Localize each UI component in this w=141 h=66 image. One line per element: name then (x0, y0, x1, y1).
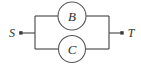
node-b-label: B (68, 9, 76, 24)
target-terminal-label: T (128, 26, 136, 40)
parallel-network-diagram: B C S T (0, 0, 141, 66)
diagram-canvas: B C S T (0, 0, 141, 66)
source-terminal-label: S (9, 26, 15, 40)
target-terminal-dot (120, 31, 123, 34)
node-c-label: C (68, 42, 77, 57)
source-terminal-dot (19, 31, 22, 34)
